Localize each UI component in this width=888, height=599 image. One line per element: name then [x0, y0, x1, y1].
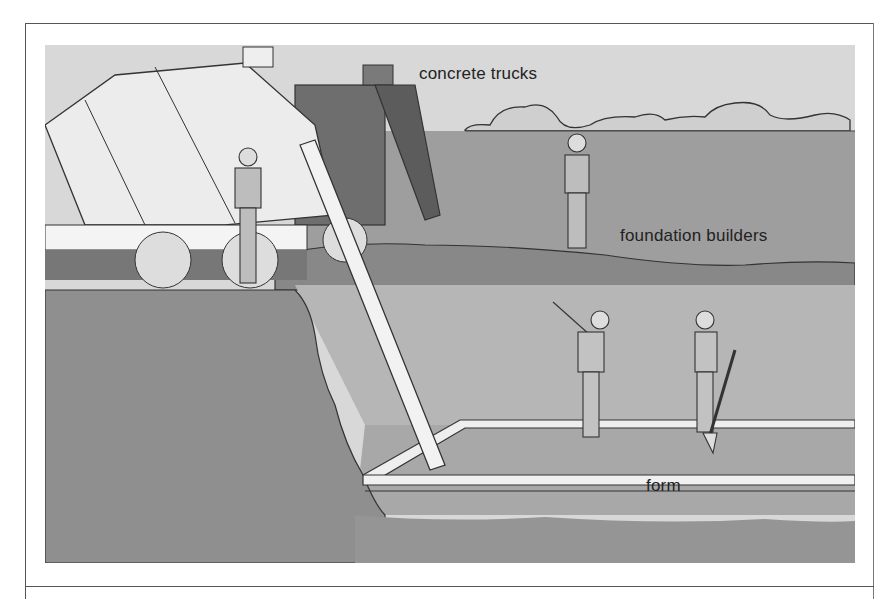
figure-frame-right: [873, 23, 874, 599]
figure-frame-top: [25, 23, 874, 24]
figure-frame-bottom: [25, 586, 874, 587]
construction-illustration: [45, 45, 855, 563]
figure-frame-left: [25, 23, 26, 599]
label-form: form: [646, 476, 681, 496]
label-foundation-builders: foundation builders: [620, 226, 767, 246]
label-concrete-trucks: concrete trucks: [419, 64, 537, 84]
foreground-ground: [355, 515, 855, 563]
